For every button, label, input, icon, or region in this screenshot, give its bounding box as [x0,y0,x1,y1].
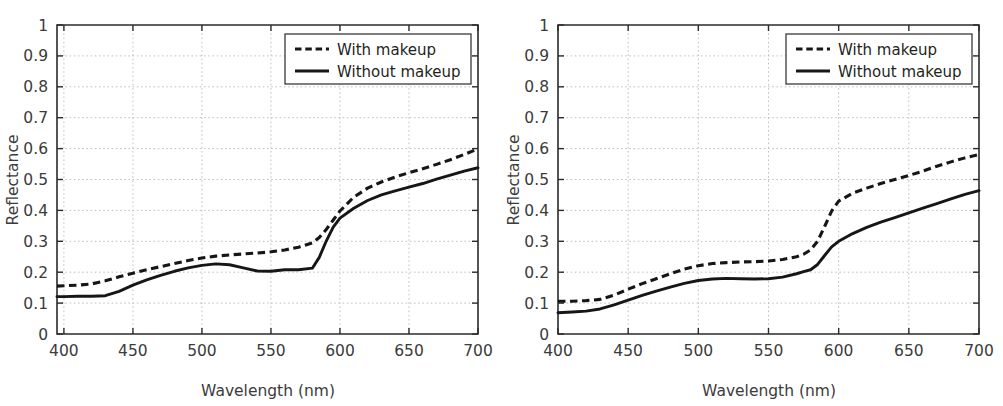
x-tick-label: 650 [394,342,424,360]
x-axis-title-right: Wavelength (nm) [702,382,836,400]
y-tick-label: 0.7 [524,109,549,127]
y-tick-label: 0.4 [524,202,549,220]
y-tick-label: 0.7 [23,109,48,127]
y-tick-label: 0.8 [524,78,549,96]
legend-label-without-makeup: Without makeup [337,63,461,81]
series-line-with-makeup [57,149,478,286]
y-tick-label: 0.8 [23,78,48,96]
y-tick-label: 0.5 [23,171,48,189]
figure-container: 00.10.20.30.40.50.60.70.80.9140045050055… [0,0,1003,406]
y-tick-label: 0.3 [23,233,48,251]
x-axis-title-left: Wavelength (nm) [201,382,335,400]
x-tick-label: 550 [256,342,286,360]
y-tick-label: 1 [539,17,549,35]
y-tick-label: 0.6 [23,140,48,158]
x-tick-label: 500 [684,342,714,360]
y-tick-label: 0.9 [23,47,48,65]
chart-svg-right: 00.10.20.30.40.50.60.70.80.9140045050055… [501,0,1002,406]
x-tick-label: 650 [894,342,924,360]
y-tick-label: 0.6 [524,140,549,158]
y-axis-title-right: Reflectance [505,135,523,226]
x-tick-label: 450 [118,342,148,360]
y-tick-label: 0.9 [524,47,549,65]
x-tick-label: 450 [613,342,643,360]
x-tick-label: 600 [325,342,355,360]
series-group-right [558,154,979,312]
y-tick-label: 0.4 [23,202,48,220]
y-tick-label: 0.5 [524,171,549,189]
chart-svg-left: 00.10.20.30.40.50.60.70.80.9140045050055… [0,0,501,406]
x-tick-label: 700 [463,342,493,360]
y-tick-label: 0.1 [23,295,48,313]
x-tick-label: 500 [187,342,217,360]
x-tick-label: 550 [754,342,784,360]
x-tick-label: 600 [824,342,854,360]
y-tick-label: 1 [38,17,48,35]
y-tick-label: 0.2 [23,264,48,282]
legend-label-without-makeup: Without makeup [838,63,962,81]
y-tick-label: 0 [539,326,549,344]
y-tick-label: 0.3 [524,233,549,251]
y-tick-label: 0 [38,326,48,344]
legend-right: With makeupWithout makeup [786,34,972,84]
legend-label-with-makeup: With makeup [838,41,937,59]
chart-panel-left: 00.10.20.30.40.50.60.70.80.9140045050055… [0,0,501,406]
chart-panel-right: 00.10.20.30.40.50.60.70.80.9140045050055… [501,0,1002,406]
y-axis-title-left: Reflectance [4,135,22,226]
legend-label-with-makeup: With makeup [337,41,436,59]
x-tick-label: 400 [49,342,79,360]
x-tick-label: 400 [543,342,573,360]
legend-left: With makeupWithout makeup [285,34,471,84]
series-group-left [57,149,478,297]
x-tick-label: 700 [964,342,994,360]
y-tick-label: 0.1 [524,295,549,313]
y-tick-label: 0.2 [524,264,549,282]
